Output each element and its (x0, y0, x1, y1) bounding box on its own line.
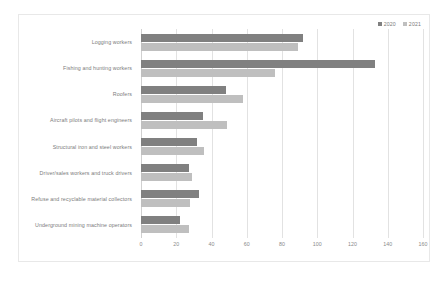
legend-swatch-2020 (378, 22, 382, 26)
category-label: Underground mining machine operators (19, 212, 137, 238)
category-label: Fishing and hunting workers (19, 55, 137, 81)
x-tick-label-80: 80 (279, 241, 285, 247)
category-label: Roofers (19, 81, 137, 107)
x-tick-label-0: 0 (140, 241, 143, 247)
chart-legend: 2020 2021 (378, 21, 421, 27)
category-label: Driver/sales workers and truck drivers (19, 160, 137, 186)
x-tick-label-40: 40 (209, 241, 215, 247)
bar-2020[interactable] (141, 86, 226, 94)
bar-2021[interactable] (141, 121, 227, 129)
x-tick-label-160: 160 (419, 241, 428, 247)
legend-label-2021: 2021 (409, 21, 421, 27)
bar-2021[interactable] (141, 199, 190, 207)
bar-2020[interactable] (141, 60, 375, 68)
category-label: Refuse and recyclable material collector… (19, 186, 137, 212)
plot-area (141, 29, 423, 238)
x-axis-tick-labels: 020406080100120140160 (141, 241, 423, 251)
bar-rows (141, 29, 423, 238)
bar-2021[interactable] (141, 95, 243, 103)
bar-2021[interactable] (141, 225, 189, 233)
category-label: Aircraft pilots and flight engineers (19, 107, 137, 133)
bar-group (141, 107, 423, 133)
bar-2020[interactable] (141, 112, 203, 120)
legend-swatch-2021 (403, 22, 407, 26)
bar-group (141, 186, 423, 212)
bar-2020[interactable] (141, 164, 189, 172)
bar-group (141, 134, 423, 160)
bar-2020[interactable] (141, 34, 303, 42)
bar-2020[interactable] (141, 138, 197, 146)
bar-2020[interactable] (141, 190, 199, 198)
x-tick-label-120: 120 (348, 241, 357, 247)
x-tick-label-100: 100 (313, 241, 322, 247)
bar-group (141, 29, 423, 55)
x-tick-label-20: 20 (173, 241, 179, 247)
legend-entry-2020[interactable]: 2020 (378, 21, 396, 27)
legend-label-2020: 2020 (384, 21, 396, 27)
bar-2021[interactable] (141, 147, 204, 155)
legend-entry-2021[interactable]: 2021 (403, 21, 421, 27)
bar-group (141, 160, 423, 186)
bar-2021[interactable] (141, 43, 298, 51)
chart-container: 2020 2021 Logging workersFishing and hun… (18, 14, 430, 262)
bar-group (141, 81, 423, 107)
bar-group (141, 212, 423, 238)
category-label: Logging workers (19, 29, 137, 55)
bar-2021[interactable] (141, 173, 192, 181)
bar-group (141, 55, 423, 81)
bar-2020[interactable] (141, 216, 180, 224)
bar-2021[interactable] (141, 69, 275, 77)
x-tick-label-140: 140 (383, 241, 392, 247)
x-tick-label-60: 60 (244, 241, 250, 247)
gridline-160 (423, 29, 424, 238)
category-label: Structural iron and steel workers (19, 134, 137, 160)
y-axis-category-labels: Logging workersFishing and hunting worke… (19, 29, 137, 238)
